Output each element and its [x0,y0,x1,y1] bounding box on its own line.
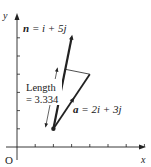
origin-label: O [5,154,13,166]
vector-a-expression: = 2i + 3j [79,103,122,115]
y-axis-label: y [2,10,8,21]
vector-projection-diagram: y x O n = i + 5j a = 2i + 3j Length = 3.… [0,0,151,167]
length-arrowhead-bottom [45,123,49,127]
length-arrowhead-top [55,68,59,72]
vector-n-arrowhead [69,35,73,40]
x-axis-label: x [140,154,146,165]
vector-n-label: n = i + 5j [23,22,67,34]
vector-a-label: a = 2i + 3j [73,103,121,115]
y-axis-arrowhead [15,13,20,20]
length-label-line1: Length [26,82,56,93]
length-label-line2: = 3.334 [26,94,59,105]
start-point [51,127,55,131]
x-axis-arrowhead [139,145,146,150]
vector-n-expression: = i + 5j [29,22,66,34]
perpendicular-line [65,69,90,74]
